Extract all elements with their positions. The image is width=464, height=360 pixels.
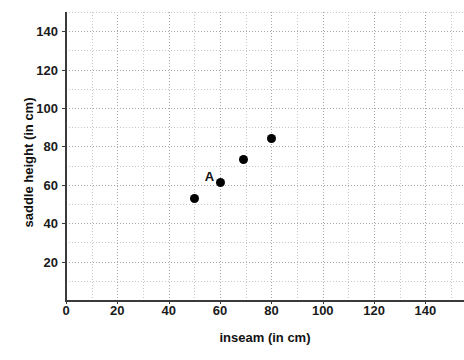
y-tick: [62, 70, 66, 71]
grid-line-horizontal: [66, 12, 464, 13]
grid-line-horizontal: [66, 204, 464, 205]
grid-line-horizontal: [66, 242, 464, 243]
x-tick-label: 60: [213, 303, 227, 318]
grid-line-horizontal: [66, 50, 464, 51]
y-tick-label: 40: [44, 216, 58, 231]
grid-line-horizontal: [66, 127, 464, 128]
grid-line-horizontal: [66, 262, 464, 263]
grid-line-vertical: [451, 12, 452, 300]
y-tick: [62, 108, 66, 109]
grid-line-horizontal: [66, 223, 464, 224]
data-point: [190, 194, 199, 203]
y-axis-title: saddle height (in cm): [21, 73, 36, 253]
grid-line-vertical: [425, 12, 426, 300]
grid-line-vertical: [374, 12, 375, 300]
data-point: [239, 155, 248, 164]
x-tick-label: 140: [415, 303, 437, 318]
grid-line-horizontal: [66, 281, 464, 282]
grid-lines: [66, 12, 464, 300]
y-tick: [62, 185, 66, 186]
x-tick-label: 120: [363, 303, 385, 318]
grid-line-vertical: [143, 12, 144, 300]
x-axis-title: inseam (in cm): [66, 330, 464, 345]
grid-line-vertical: [117, 12, 118, 300]
x-tick-label: 20: [110, 303, 124, 318]
grid-line-vertical: [271, 12, 272, 300]
x-tick-label: 80: [264, 303, 278, 318]
y-tick-label: 120: [36, 62, 58, 77]
y-tick: [62, 31, 66, 32]
y-tick-label: 60: [44, 177, 58, 192]
y-tick-label: 100: [36, 101, 58, 116]
grid-line-horizontal: [66, 108, 464, 109]
grid-line-vertical: [220, 12, 221, 300]
grid-line-horizontal: [66, 166, 464, 167]
grid-line-vertical: [92, 12, 93, 300]
plot-area: [66, 12, 464, 300]
y-tick: [62, 262, 66, 263]
grid-line-horizontal: [66, 70, 464, 71]
grid-line-vertical: [169, 12, 170, 300]
grid-line-horizontal: [66, 185, 464, 186]
data-point: [216, 178, 225, 187]
grid-line-vertical: [323, 12, 324, 300]
x-tick-label: 100: [312, 303, 334, 318]
grid-line-horizontal: [66, 146, 464, 147]
grid-line-vertical: [348, 12, 349, 300]
y-tick: [62, 223, 66, 224]
x-tick-label: 0: [62, 303, 69, 318]
grid-line-horizontal: [66, 31, 464, 32]
x-tick-label: 40: [161, 303, 175, 318]
y-axis-line: [65, 12, 67, 301]
y-tick-label: 80: [44, 139, 58, 154]
y-tick-label: 20: [44, 254, 58, 269]
x-axis-line: [65, 300, 464, 302]
y-tick-label: 140: [36, 24, 58, 39]
y-tick: [62, 146, 66, 147]
grid-line-horizontal: [66, 89, 464, 90]
point-label-a: A: [205, 168, 214, 183]
grid-line-vertical: [297, 12, 298, 300]
grid-line-vertical: [194, 12, 195, 300]
grid-line-vertical: [400, 12, 401, 300]
scatter-chart: 020406080100120140 20406080100120140 A i…: [0, 0, 464, 360]
